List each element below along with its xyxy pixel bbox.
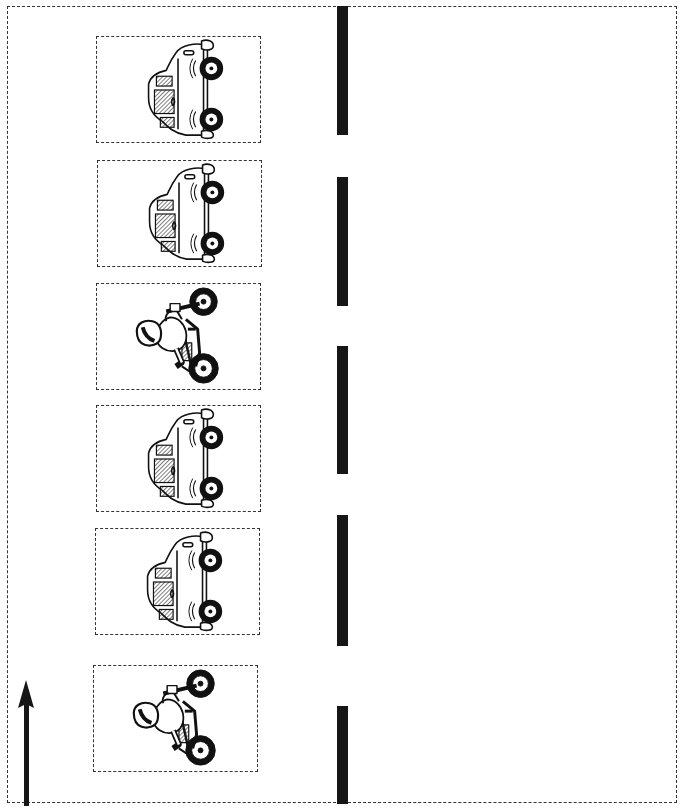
vehicle-card-car: [97, 160, 262, 267]
vehicle-card-motorcycle: [96, 283, 261, 390]
direction-arrow: [12, 678, 42, 806]
car-icon: [98, 161, 261, 266]
motorcycle-icon: [97, 284, 260, 389]
arrow-up-icon: [12, 678, 42, 806]
car-icon: [97, 406, 260, 511]
motorcycle-icon: [94, 666, 257, 771]
lane-dash: [337, 177, 348, 306]
vehicle-card-motorcycle: [93, 665, 258, 772]
vehicle-card-car: [95, 528, 260, 635]
car-icon: [96, 529, 259, 634]
lane-dash: [337, 706, 348, 804]
vehicle-card-car: [96, 405, 261, 512]
lane-dash: [337, 515, 348, 646]
car-icon: [97, 37, 260, 142]
lane-dash: [337, 346, 348, 474]
vehicle-card-car: [96, 36, 261, 143]
lane-dash: [337, 6, 348, 135]
